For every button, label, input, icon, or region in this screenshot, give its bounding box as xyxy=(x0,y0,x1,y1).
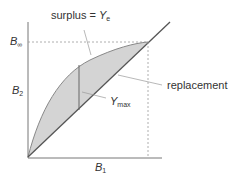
ymax-label: Ymax xyxy=(110,96,131,108)
y-axis-label: B2 xyxy=(12,85,23,97)
x-axis-label: B1 xyxy=(95,162,106,174)
b-inf-label: B∞ xyxy=(10,36,22,48)
replacement-leader xyxy=(118,75,162,85)
replacement-label: replacement xyxy=(167,80,228,91)
surplus-label: surplus = Ye xyxy=(51,10,110,22)
surplus-leader xyxy=(84,30,91,55)
